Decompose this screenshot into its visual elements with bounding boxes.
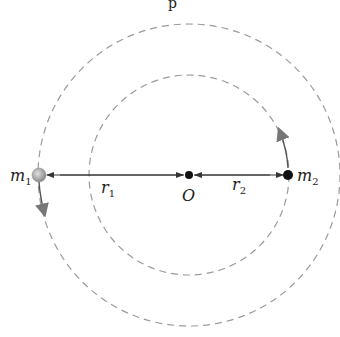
two-body-orbit-diagram: p m1 m2 r1 r2 O (0, 0, 340, 337)
center-of-mass-dot (185, 171, 193, 179)
title-fragment: p (168, 0, 177, 11)
m1-label: m1 (10, 166, 32, 187)
r1-label: r1 (101, 178, 115, 199)
r2-label: r2 (232, 175, 246, 196)
m2-label: m2 (297, 166, 319, 187)
mass-m1-dot (32, 168, 46, 182)
center-label: O (182, 186, 195, 205)
m1-velocity-arrow (39, 182, 44, 212)
mass-m2-dot (283, 170, 293, 180)
